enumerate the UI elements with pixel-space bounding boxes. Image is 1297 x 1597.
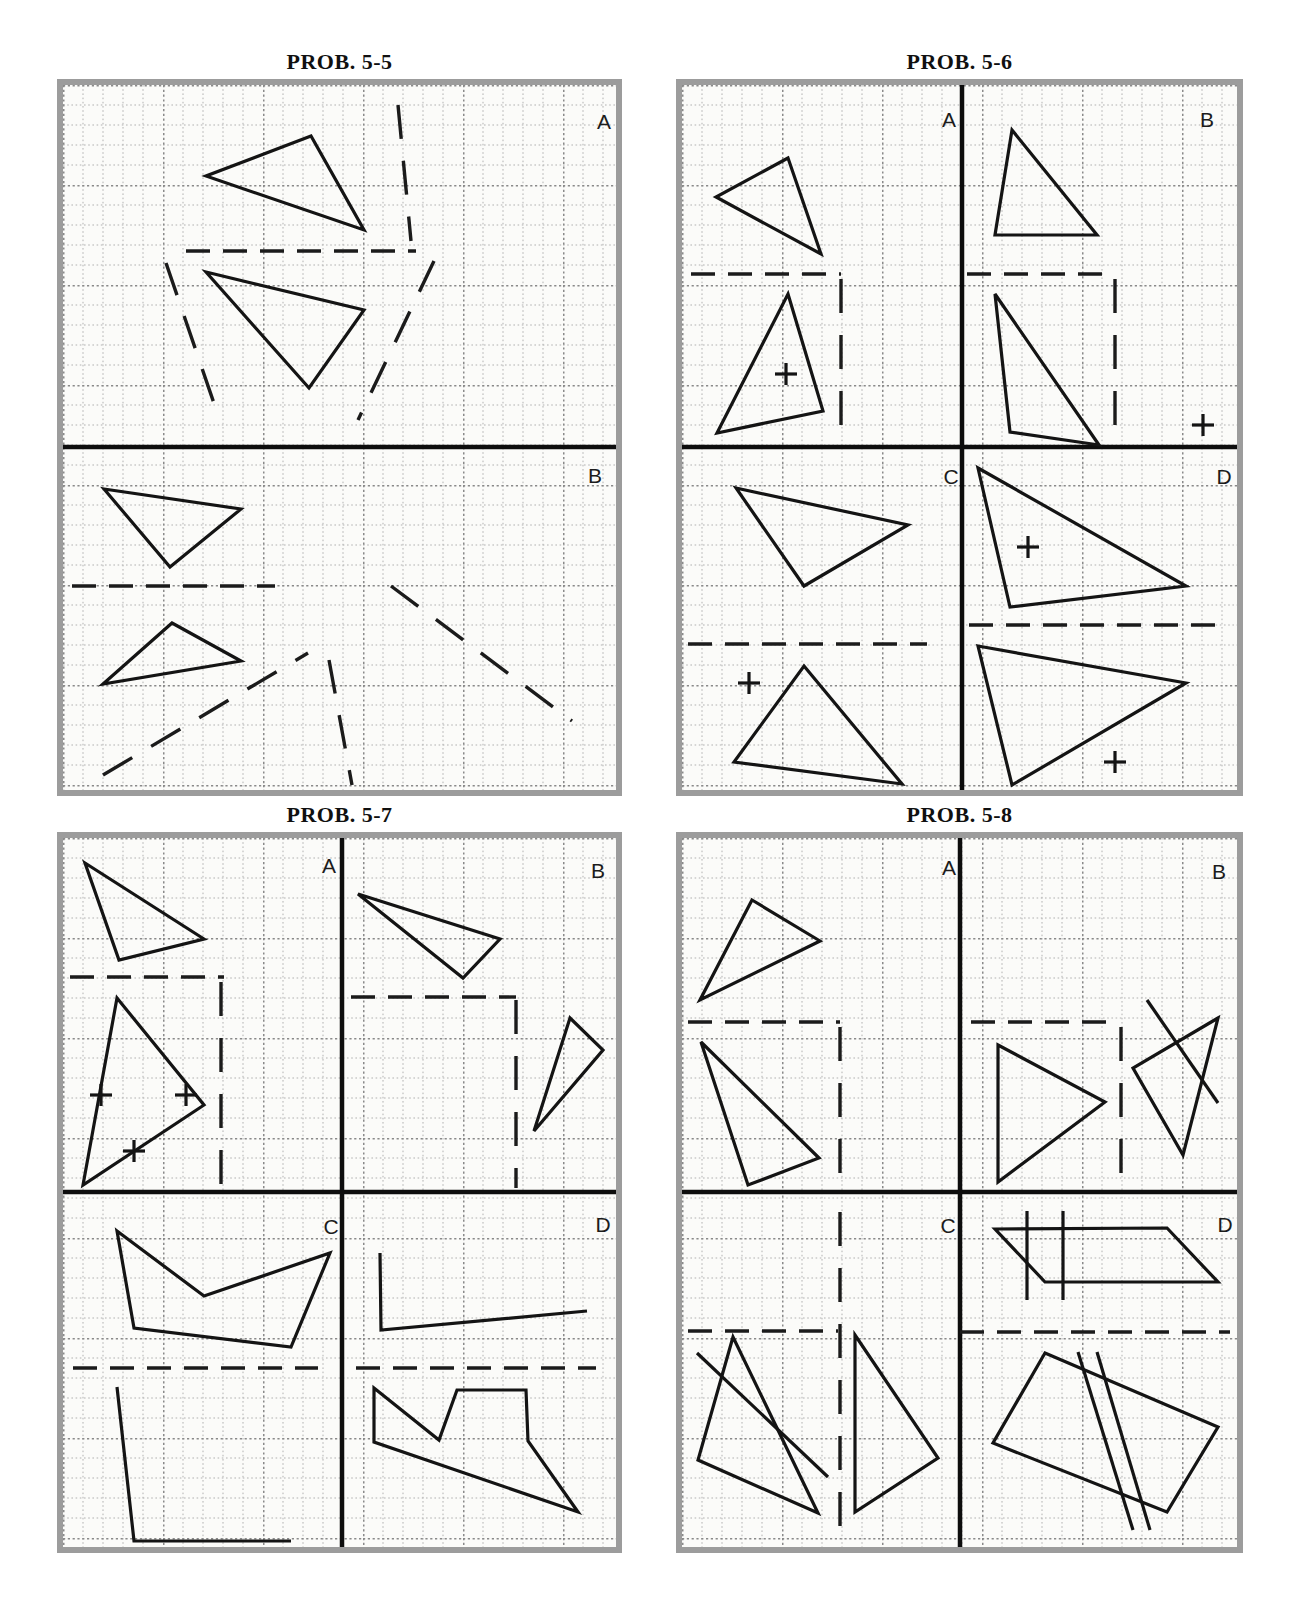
quadrant-label: A [322, 854, 336, 877]
quadrant-label: B [1212, 860, 1226, 883]
page: { "colors": { "ink": "#141414", "dash_in… [0, 0, 1297, 1597]
quadrant-label: D [1217, 1213, 1232, 1236]
grid-canvas-5-8: ABCD [676, 832, 1243, 1553]
problem-block-5-8: PROB. 5-8 ABCD [676, 800, 1243, 1553]
panel-title: PROB. 5-8 [676, 800, 1243, 832]
grid-canvas-5-6: ABCD [676, 79, 1243, 796]
quadrant-label: C [943, 465, 958, 488]
quadrant-label: C [323, 1215, 338, 1238]
problem-block-5-5: PROB. 5-5 AB [57, 47, 622, 796]
panel-title: PROB. 5-5 [57, 47, 622, 79]
quadrant-label: B [591, 859, 605, 882]
grid-canvas-5-5: AB [57, 79, 622, 796]
problem-block-5-6: PROB. 5-6 ABCD [676, 47, 1243, 796]
quadrant-label: B [1200, 108, 1214, 131]
problem-block-5-7: PROB. 5-7 ABCD [57, 800, 622, 1553]
graph-paper [682, 85, 1237, 790]
grid-canvas-5-7: ABCD [57, 832, 622, 1553]
quadrant-label: A [942, 856, 956, 879]
quadrant-label: B [588, 464, 602, 487]
quadrant-label: A [597, 110, 611, 133]
quadrant-label: D [595, 1213, 610, 1236]
panel-title: PROB. 5-6 [676, 47, 1243, 79]
quadrant-label: D [1216, 465, 1231, 488]
quadrant-label: A [942, 108, 956, 131]
graph-paper [63, 85, 616, 790]
quadrant-label: C [940, 1214, 955, 1237]
panel-title: PROB. 5-7 [57, 800, 622, 832]
